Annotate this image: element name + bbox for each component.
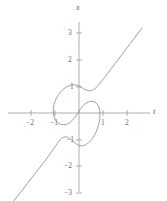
- x-tick-label--1: −1: [50, 119, 58, 127]
- plot-figure: x t −2 −1 1 2 3 2 1 −1 −2 −3: [0, 0, 167, 201]
- plot-canvas: [0, 0, 167, 201]
- y-tick-label--3: −3: [64, 189, 72, 197]
- y-tick-label-1: 1: [70, 83, 74, 91]
- y-tick-label-3: 3: [68, 29, 72, 37]
- axes-group: [8, 22, 150, 192]
- y-tick-label-2: 2: [68, 56, 72, 64]
- x-tick-label--2: −2: [26, 119, 34, 127]
- data-curve: [14, 28, 142, 201]
- x-tick-label-1: 1: [101, 119, 105, 127]
- x-tick-label-2: 2: [125, 119, 129, 127]
- x-axis-label: t: [153, 107, 155, 116]
- y-tick-label--2: −2: [64, 162, 72, 170]
- y-tick-label--1: −1: [66, 136, 74, 144]
- y-axis-label: x: [76, 3, 80, 12]
